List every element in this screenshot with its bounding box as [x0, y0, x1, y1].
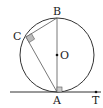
center-point-o	[56, 54, 59, 57]
chord-ca	[26, 37, 57, 92]
label-t: T	[92, 94, 100, 107]
circle-diagram: B C O A T	[0, 0, 103, 108]
label-a: A	[52, 94, 62, 107]
label-o: O	[60, 49, 69, 62]
geometry-figure: B C O A T	[0, 0, 103, 108]
label-b: B	[53, 5, 61, 18]
right-angle-marker-a	[57, 87, 62, 92]
point-t	[95, 91, 98, 94]
label-c: C	[13, 30, 21, 43]
right-angle-marker-c	[26, 34, 35, 43]
